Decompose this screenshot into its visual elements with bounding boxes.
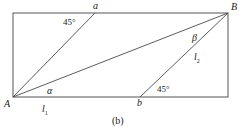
segment-label-l1-sub: 1: [45, 110, 48, 116]
point-label-a: a: [93, 1, 98, 11]
segment-label-l2-sub: 2: [197, 58, 200, 64]
segment-label-l1: l1: [42, 104, 48, 116]
segment-label-l2: l2: [194, 52, 200, 64]
angle-label-45-top: 45°: [63, 18, 76, 27]
angle-label-alpha: α: [47, 86, 52, 96]
angle-label-45-bottom: 45°: [157, 85, 170, 94]
geometry-figure: A B a b 45° 45° α β l1 l2 (b): [0, 0, 245, 131]
figure-caption: (b): [112, 115, 124, 126]
point-label-b: b: [137, 98, 142, 108]
vertex-label-A: A: [4, 99, 10, 109]
figure-drawing: [0, 0, 245, 131]
line-b-to-B: [140, 13, 228, 97]
angle-label-beta: β: [192, 33, 197, 43]
line-A-to-a: [13, 13, 95, 97]
vertex-label-B: B: [231, 2, 237, 12]
